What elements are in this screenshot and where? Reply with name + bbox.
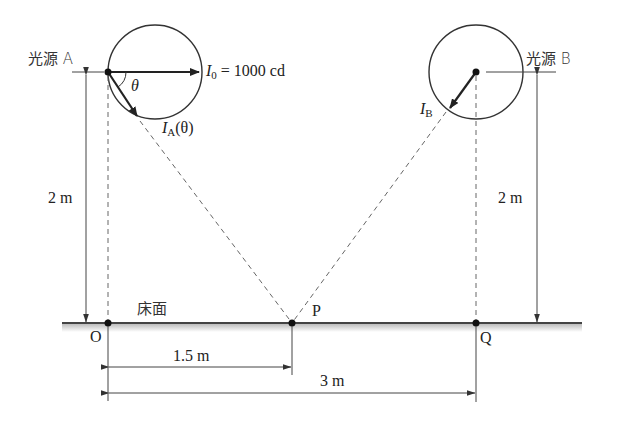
floor-shadow (62, 323, 582, 332)
floor (62, 323, 582, 332)
light-source-b (429, 25, 556, 323)
ray-a-to-p (140, 121, 292, 323)
ia-label: IA(θ) (162, 120, 194, 138)
height-label-a: 2 m (48, 190, 72, 206)
point-a (105, 69, 112, 76)
i0-label: I0 = 1000 cd (206, 63, 285, 81)
point-p (289, 320, 296, 327)
floor-label: 床面 (137, 302, 167, 317)
point-o-label: O (90, 329, 102, 345)
ib-subscript: B (425, 107, 432, 119)
point-q-label: Q (480, 330, 492, 346)
dimension-oq-label: 3 m (320, 373, 344, 389)
ib-label: IB (420, 101, 433, 119)
ray-b-to-p (292, 112, 446, 323)
point-q (473, 320, 480, 327)
i0-value: = 1000 cd (217, 62, 285, 79)
point-b (473, 69, 480, 76)
height-label-b: 2 m (498, 190, 522, 206)
light-source-a-label: 光源 A (28, 52, 73, 67)
dimension-op-label: 1.5 m (173, 348, 209, 364)
light-source-a (72, 25, 202, 323)
point-p-label: P (312, 303, 321, 319)
ib-arrow (450, 72, 476, 108)
light-source-b-label: 光源 B (526, 52, 571, 67)
theta-arc (118, 72, 126, 87)
theta-label: θ (131, 78, 139, 94)
ia-argument: (θ) (175, 119, 193, 136)
point-o (105, 320, 112, 327)
